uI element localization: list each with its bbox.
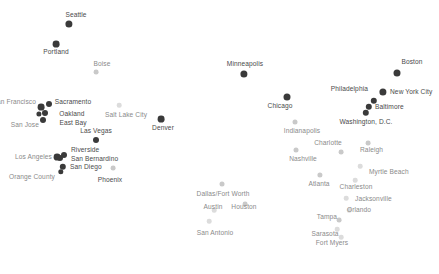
city-marker[interactable] [339,150,344,155]
city-label: Dallas/Fort Worth [197,191,250,198]
city-label: Riverside [71,147,99,154]
city-label: Minneapolis [227,61,263,68]
city-label: East Bay [59,120,86,127]
city-label: Denver [152,125,174,132]
city-marker[interactable] [344,196,349,201]
city-label: Phoenix [98,177,123,184]
city-label: Austin [204,204,223,211]
city-label: Oakland [59,111,84,118]
city-label: Nashville [289,156,317,163]
city-label: San Jose [11,122,39,129]
city-label: Sarasota [311,231,338,238]
city-label: Charleston [340,184,373,191]
city-marker[interactable] [353,178,358,183]
city-label: Baltimore [375,104,404,111]
city-marker[interactable] [40,117,46,123]
city-marker[interactable] [93,137,99,143]
city-label: Myrtle Beach [369,169,409,176]
city-marker[interactable] [65,20,72,27]
city-marker[interactable] [46,101,52,107]
city-label: San Diego [70,164,102,171]
city-marker[interactable] [53,41,60,48]
city-label: Tampa [317,214,337,221]
city-label: San Bernardino [71,156,118,163]
map-canvas: SeattlePortlandBoiseMinneapolisBostonChi… [0,0,439,274]
city-marker[interactable] [366,141,371,146]
city-label: Fort Myers [316,240,349,247]
city-label: Salt Lake City [105,112,147,119]
city-label: New York City [390,89,432,96]
city-marker[interactable] [284,94,291,101]
city-marker[interactable] [294,148,299,153]
city-label: San Antonio [197,230,234,237]
city-label: Charlotte [314,140,342,147]
city-label: San Francisco [0,99,36,106]
city-marker[interactable] [94,70,99,75]
city-label: Indianapolis [284,128,320,135]
city-marker[interactable] [54,154,61,161]
city-label: Orange County [9,174,55,181]
city-label: Washington, D.C. [339,119,392,126]
city-marker[interactable] [293,120,298,125]
city-label: Raleigh [360,147,383,154]
city-label: Portland [43,49,68,56]
city-marker[interactable] [394,70,401,77]
city-marker[interactable] [42,110,48,116]
city-label: Seattle [65,12,86,19]
city-marker[interactable] [379,88,386,95]
city-label: Jacksonville [355,196,392,203]
city-marker[interactable] [158,116,165,123]
city-marker[interactable] [207,219,212,224]
city-label: Las Vegas [80,128,112,135]
city-marker[interactable] [36,111,41,116]
city-label: Los Angeles [15,154,52,161]
city-marker[interactable] [337,218,342,223]
city-marker[interactable] [240,70,247,77]
city-label: Philadelphia [331,86,368,93]
city-label: Atlanta [308,181,329,188]
city-marker[interactable] [358,164,363,169]
city-marker[interactable] [317,172,322,177]
city-marker[interactable] [363,110,369,116]
city-label: Houston [231,204,256,211]
city-label: Boston [401,59,422,66]
city-marker[interactable] [220,182,225,187]
city-label: Orlando [347,207,371,214]
city-marker[interactable] [58,169,63,174]
city-label: Sacramento [55,99,92,106]
city-marker[interactable] [111,166,116,171]
city-label: Chicago [268,103,293,110]
city-marker[interactable] [117,103,122,108]
city-label: Boise [94,61,111,68]
